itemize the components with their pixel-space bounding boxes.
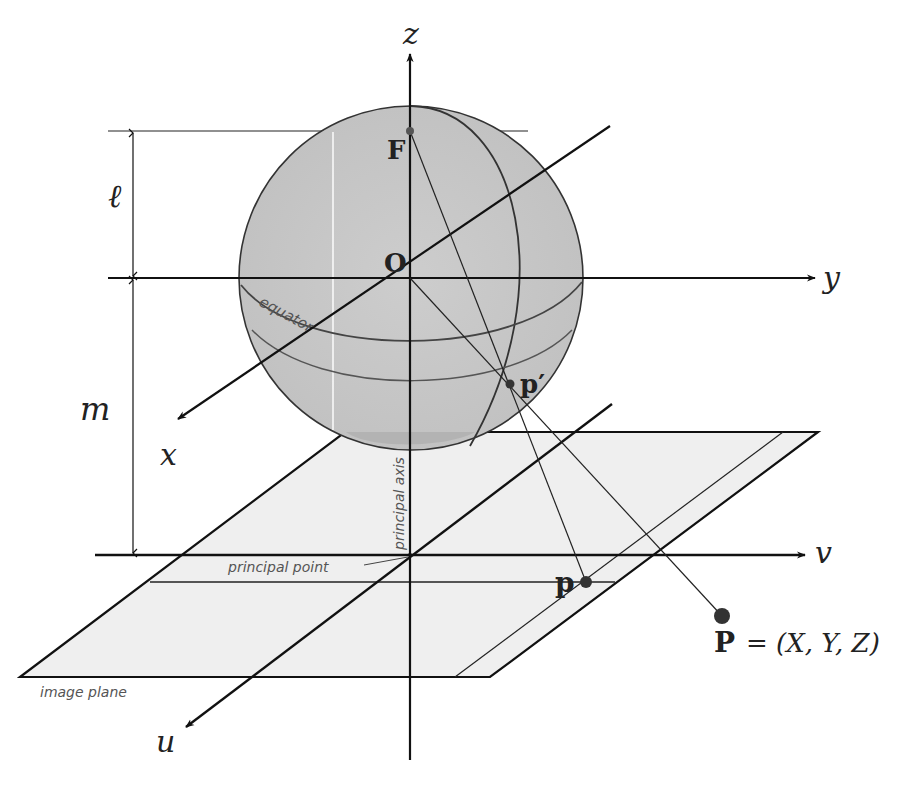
- z-axis-label: z: [402, 16, 419, 51]
- F-label: F: [387, 135, 406, 165]
- principal-axis-label: principal axis: [391, 457, 407, 551]
- diagram-canvas: z y x v u ℓ m F O p′ p P = (X, Y, Z) equ…: [0, 0, 920, 792]
- dimension-l-label: ℓ: [108, 177, 122, 215]
- image-plane-label: image plane: [40, 684, 127, 700]
- P-label: P: [714, 626, 735, 659]
- point-F: [406, 127, 414, 135]
- p-prime-label: p′: [520, 369, 545, 399]
- p-label: p: [555, 566, 575, 599]
- x-axis-label: x: [160, 437, 177, 472]
- principal-point-marker: [408, 553, 412, 557]
- point-P: [714, 608, 730, 624]
- v-axis-label: v: [815, 535, 832, 570]
- O-label: O: [384, 248, 407, 278]
- point-p-prime: [506, 380, 515, 389]
- y-axis-label: y: [821, 260, 841, 295]
- u-axis-label: u: [156, 724, 175, 759]
- point-p: [580, 576, 592, 588]
- dimension-m-label: m: [80, 390, 110, 428]
- P-coordinates: = (X, Y, Z): [746, 628, 880, 658]
- principal-point-label: principal point: [227, 559, 329, 575]
